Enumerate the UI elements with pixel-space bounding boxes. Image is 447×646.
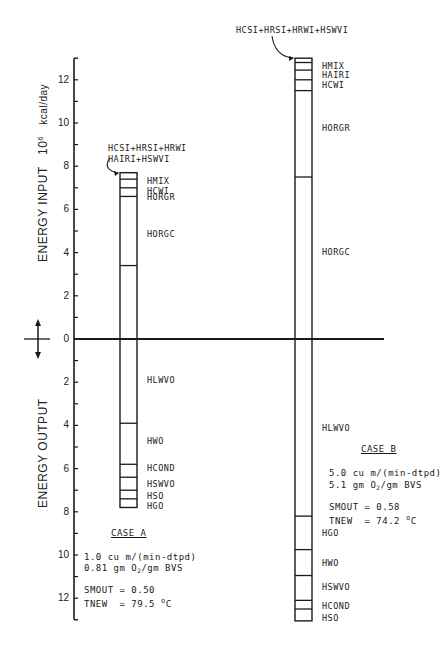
case-a-bar	[120, 173, 137, 508]
unit-base: 10	[36, 141, 50, 155]
segment-label-hcwi: HCWI	[322, 80, 344, 90]
case-a-tnew-pre: TNEW = 79.5	[84, 599, 161, 609]
case-b-tnew: TNEW = 74.2 oC	[329, 513, 417, 526]
segment-label-hlwvo: HLWVO	[322, 423, 350, 433]
tick-label: 10	[53, 118, 69, 128]
segment-label-hairi: HAIRI	[322, 70, 350, 80]
up-down-arrow-icon	[24, 319, 50, 359]
segment-label-hcond: HCOND	[147, 463, 175, 473]
case-b-oxygen-pre: 5.1 gm O	[329, 480, 376, 490]
tick-label: 8	[53, 507, 69, 517]
case-a-flow: 1.0 cu m/(min-dtpd)	[84, 552, 196, 562]
case-b-oxygen-post: /gm BVS	[380, 480, 421, 490]
unit-exponent: 6	[37, 136, 44, 140]
case-a-smout: SMOUT = 0.50	[84, 585, 155, 595]
tick-label: 4	[53, 420, 69, 430]
tick-label: 0	[53, 334, 69, 344]
segment-label-hwo: HWO	[322, 558, 339, 568]
tick-label: 12	[53, 75, 69, 85]
energy-output-text: ENERGY OUTPUT	[36, 398, 50, 508]
segment-label-horgc: HORGC	[147, 229, 175, 239]
tick-label: 10	[53, 550, 69, 560]
energy-input-text: ENERGY INPUT	[36, 166, 50, 262]
case-a-input-callout-line1: HCSI+HRSI+HRWI	[108, 143, 187, 153]
tick-label: 6	[53, 464, 69, 474]
case-a-title: CASE A	[111, 528, 147, 538]
segment-label-hcond: HCOND	[322, 601, 350, 611]
y-axis-label-input: ENERGY INPUT 106 kcal/day	[36, 84, 50, 262]
segment-label-hmix: HMIX	[147, 176, 169, 186]
segment-label-hswvo: HSWVO	[147, 479, 175, 489]
tick-label: 8	[53, 161, 69, 171]
tick-label: 2	[53, 377, 69, 387]
case-b-flow: 5.0 cu m/(min-dtpd)	[329, 468, 441, 478]
case-a-input-callout-line2: HAIRI+HSWVI	[108, 154, 170, 164]
segment-label-hgo: HGO	[322, 528, 339, 538]
case-b-smout: SMOUT = 0.58	[329, 502, 400, 512]
y-axis-label-output: ENERGY OUTPUT	[36, 398, 50, 508]
case-b-input-callout: HCSI+HRSI+HRWI+HSWVI	[236, 25, 348, 35]
segment-label-hgo: HGO	[147, 501, 164, 511]
case-b-tnew-unit: C	[411, 516, 417, 526]
segment-label-hswvo: HSWVO	[322, 582, 350, 592]
segment-label-hso: HSO	[322, 613, 339, 623]
case-a-tnew-unit: C	[166, 599, 172, 609]
segment-label-hcwi: HCWI	[147, 186, 169, 196]
tick-label: 12	[53, 593, 69, 603]
case-b-oxygen: 5.1 gm O2/gm BVS	[329, 480, 422, 493]
tick-label: 2	[53, 291, 69, 301]
case-a-oxygen: 0.81 gm O2/gm BVS	[84, 563, 183, 576]
segment-label-horgc: HORGC	[322, 247, 350, 257]
case-b-callout-arrow	[272, 36, 293, 58]
segment-label-hwo: HWO	[147, 436, 164, 446]
case-b-title: CASE B	[361, 444, 397, 454]
tick-label: 4	[53, 248, 69, 258]
case-b-tnew-pre: TNEW = 74.2	[329, 516, 406, 526]
segment-label-hmix: HMIX	[322, 61, 344, 71]
segment-label-horgr: HORGR	[322, 123, 350, 133]
case-a-oxygen-post: /gm BVS	[141, 563, 182, 573]
tick-label: 6	[53, 204, 69, 214]
unit-text: kcal/day	[38, 84, 49, 125]
case-a-tnew: TNEW = 79.5 oC	[84, 596, 172, 609]
case-a-oxygen-pre: 0.81 gm O	[84, 563, 137, 573]
segment-label-hlwvo: HLWVO	[147, 375, 175, 385]
segment-label-hso: HSO	[147, 491, 164, 501]
